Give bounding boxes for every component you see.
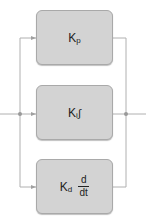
integral-operator: ∫ [78, 107, 81, 119]
gain-symbol: K [68, 106, 76, 120]
gain-subscript: p [76, 36, 80, 45]
proportional-block: Kp [36, 10, 113, 65]
derivative-block: Kd d dt [36, 159, 113, 214]
sum-junction-dot [124, 112, 128, 116]
integral-block: Ki∫ [36, 85, 113, 140]
derivative-operator: d dt [78, 175, 89, 198]
fraction-denominator: dt [80, 188, 88, 198]
gain-subscript: d [68, 185, 72, 194]
fraction-numerator: d [81, 175, 87, 185]
split-junction-dot [18, 112, 22, 116]
gain-symbol: K [68, 31, 76, 45]
gain-subscript: i [76, 111, 78, 120]
gain-symbol: K [60, 180, 68, 194]
